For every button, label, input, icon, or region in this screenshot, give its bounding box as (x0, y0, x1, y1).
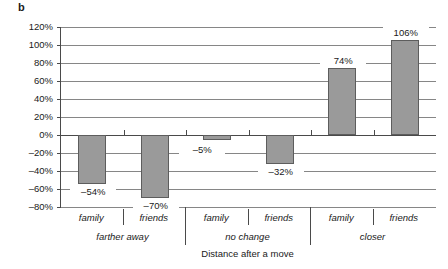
x-tick-mark (249, 130, 250, 135)
y-tick-mark (57, 135, 61, 136)
bar-value-label-closer-friends: 106% (383, 27, 429, 38)
y-tick-label: 60% (7, 76, 53, 86)
gridline (61, 189, 436, 190)
bar-closer-friends (391, 40, 419, 135)
gridline (61, 63, 436, 64)
y-tick-label: 0% (7, 130, 53, 140)
category-divider (123, 209, 124, 225)
gridline (61, 45, 436, 46)
x-tick-mark (186, 130, 187, 135)
y-tick-mark (57, 99, 61, 100)
group-label-farther-away: farther away (60, 227, 185, 245)
y-tick-mark (57, 117, 61, 118)
category-divider (248, 209, 249, 225)
x-axis-title: Distance after a move (60, 248, 435, 260)
y-tick-label: –40% (7, 166, 53, 176)
y-tick-label: –80% (7, 202, 53, 212)
category-row-groups: farther awayno changecloser (60, 227, 435, 245)
gridline (61, 81, 436, 82)
zero-line (61, 135, 436, 136)
group-divider (310, 207, 311, 245)
category-axis: familyfriendsfamilyfriendsfamilyfriends … (60, 207, 435, 245)
gridline (61, 27, 436, 28)
plot-area: 120%100%80%60%40%20%0%–20%–40%–60%–80%–5… (60, 27, 435, 207)
gridline (61, 153, 436, 154)
y-tick-label: –60% (7, 184, 53, 194)
x-tick-mark (374, 130, 375, 135)
category-label-no-change-friends: friends (248, 207, 311, 227)
bar-value-label-closer-family: 74% (320, 55, 366, 66)
x-tick-mark (311, 130, 312, 135)
y-tick-mark (57, 171, 61, 172)
gridline (61, 171, 436, 172)
y-tick-mark (57, 45, 61, 46)
y-tick-label: –20% (7, 148, 53, 158)
gridline (61, 117, 436, 118)
bar-no-change-family (203, 135, 231, 140)
x-tick-mark (124, 130, 125, 135)
y-tick-label: 120% (7, 22, 53, 32)
y-tick-label: 20% (7, 112, 53, 122)
y-tick-mark (57, 27, 61, 28)
panel-letter: b (18, 1, 25, 13)
group-divider (185, 207, 186, 245)
category-label-farther-away-family: family (60, 207, 123, 227)
bar-no-change-friends (266, 135, 294, 164)
y-tick-mark (57, 153, 61, 154)
bar-closer-family (328, 68, 356, 135)
bar-value-label-no-change-friends: –32% (258, 166, 304, 177)
y-tick-mark (57, 63, 61, 64)
category-label-closer-family: family (310, 207, 373, 227)
category-label-closer-friends: friends (373, 207, 436, 227)
y-tick-label: 40% (7, 94, 53, 104)
category-label-farther-away-friends: friends (123, 207, 186, 227)
y-tick-label: 80% (7, 58, 53, 68)
bar-value-label-no-change-family: –5% (179, 144, 225, 155)
category-row-subgroups: familyfriendsfamilyfriendsfamilyfriends (60, 207, 435, 227)
bar-value-label-farther-away-family: –54% (70, 186, 116, 197)
category-divider (373, 209, 374, 225)
group-label-no-change: no change (185, 227, 310, 245)
y-tick-mark (57, 189, 61, 190)
group-label-closer: closer (310, 227, 435, 245)
category-label-no-change-family: family (185, 207, 248, 227)
bar-farther-away-family (78, 135, 106, 184)
y-tick-mark (57, 81, 61, 82)
bar-farther-away-friends (141, 135, 169, 198)
y-tick-label: 100% (7, 40, 53, 50)
gridline (61, 99, 436, 100)
